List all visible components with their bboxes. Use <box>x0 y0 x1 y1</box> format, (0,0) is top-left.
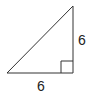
triangle <box>7 6 73 73</box>
horizontal-leg-label: 6 <box>37 78 45 94</box>
vertical-leg-label: 6 <box>78 32 86 48</box>
right-triangle-diagram: 6 6 <box>0 0 91 94</box>
right-angle-marker <box>61 61 73 73</box>
